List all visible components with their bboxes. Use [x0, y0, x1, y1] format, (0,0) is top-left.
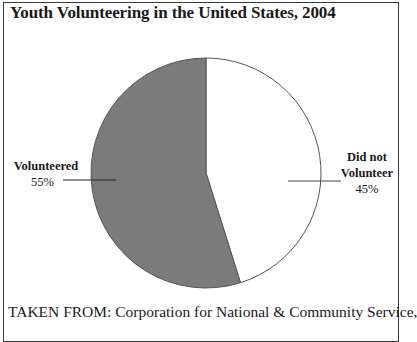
label-did-not-line1: Did not: [335, 149, 399, 165]
label-volunteered-pct: 55%: [6, 174, 86, 190]
label-volunteered-name: Volunteered: [6, 158, 86, 174]
source-note: TAKEN FROM: Corporation for National & C…: [8, 303, 417, 321]
label-volunteered: Volunteered 55%: [6, 158, 86, 190]
label-did-not-line2: Volunteer: [335, 165, 399, 181]
label-did-not-pct: 45%: [335, 181, 399, 197]
label-did-not-volunteer: Did not Volunteer 45%: [335, 149, 399, 197]
